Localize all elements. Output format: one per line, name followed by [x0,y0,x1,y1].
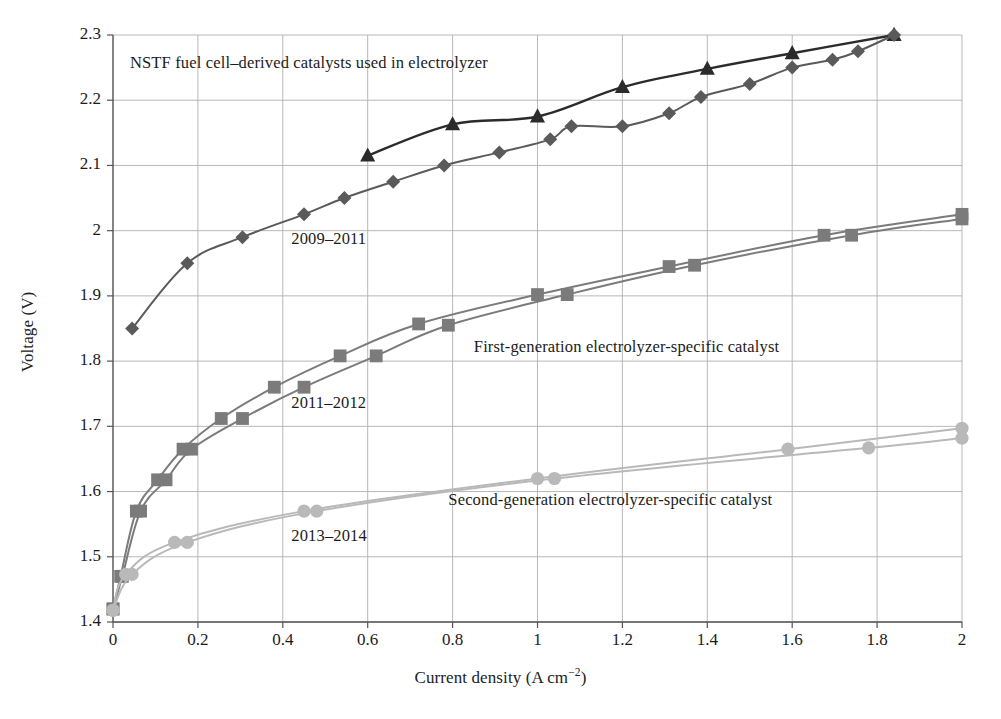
chart-figure: 1.41.51.61.71.81.922.12.22.3 00.20.40.60… [0,0,1001,719]
series-line [132,35,894,329]
y-tick-label: 1.6 [41,481,101,501]
y-tick-label: 2.1 [41,154,101,174]
y-axis-title: Voltage (V) [18,262,38,402]
data-point-diamond [615,119,629,133]
data-point-square [370,349,383,362]
data-point-diamond [543,132,557,146]
chart-annotation: 2011–2012 [291,393,366,413]
data-point-square [845,229,858,242]
data-point-circle [297,505,310,518]
data-point-circle [531,472,544,485]
data-point-diamond [492,145,506,159]
chart-annotation: NSTF fuel cell–derived catalysts used in… [130,53,488,73]
data-point-diamond [851,44,865,58]
series-0 [360,27,901,162]
data-point-square [134,505,147,518]
chart-annotation: 2009–2011 [291,229,366,249]
data-point-diamond [564,119,578,133]
data-point-circle [106,604,119,617]
grid-layer [113,35,962,622]
y-tick-label: 1.4 [41,611,101,631]
data-point-diamond [662,106,676,120]
data-point-circle [781,443,794,456]
chart-annotation: First-generation electrolyzer-specific c… [474,337,779,357]
x-tick-label: 2 [932,630,992,650]
x-tick-label: 0 [83,630,143,650]
data-point-diamond [235,230,249,244]
y-tick-label: 1.8 [41,350,101,370]
data-point-square [215,412,228,425]
data-point-diamond [437,158,451,172]
chart-annotation: 2013–2014 [291,526,367,546]
data-point-diamond [297,207,311,221]
x-tick-label: 0.4 [253,630,313,650]
data-point-circle [862,441,875,454]
data-point-square [236,412,249,425]
data-point-square [442,319,455,332]
data-point-square [688,259,701,272]
data-point-circle [955,431,968,444]
series-1 [125,28,901,336]
data-point-square [956,213,969,226]
x-axis-title: Current density (A cm−2) [0,668,1001,688]
data-point-square [185,443,198,456]
data-point-square [160,473,173,486]
data-point-diamond [743,77,757,91]
data-point-square [561,288,574,301]
data-point-diamond [694,90,708,104]
y-tick-label: 1.7 [41,415,101,435]
x-tick-label: 1.2 [592,630,652,650]
data-point-circle [126,568,139,581]
x-tick-label: 1 [508,630,568,650]
x-tick-label: 1.8 [847,630,907,650]
y-tick-label: 2.2 [41,89,101,109]
x-tick-label: 0.6 [338,630,398,650]
plot-canvas [0,0,1001,719]
y-tick-label: 1.5 [41,546,101,566]
x-tick-label: 1.4 [677,630,737,650]
y-tick-label: 1.9 [41,285,101,305]
data-point-square [268,381,281,394]
x-tick-label: 0.2 [168,630,228,650]
data-point-square [531,288,544,301]
data-point-circle [181,536,194,549]
y-tick-label: 2.3 [41,24,101,44]
data-point-diamond [785,61,799,75]
data-point-circle [548,472,561,485]
data-point-circle [310,505,323,518]
x-tick-label: 0.8 [423,630,483,650]
data-point-square [412,318,425,331]
axis-layer [107,35,962,628]
data-point-square [334,349,347,362]
y-tick-label: 2 [41,220,101,240]
data-point-diamond [826,53,840,67]
chart-annotation: Second-generation electrolyzer-specific … [448,490,772,510]
data-point-diamond [337,191,351,205]
data-point-diamond [386,175,400,189]
x-tick-label: 1.6 [762,630,822,650]
